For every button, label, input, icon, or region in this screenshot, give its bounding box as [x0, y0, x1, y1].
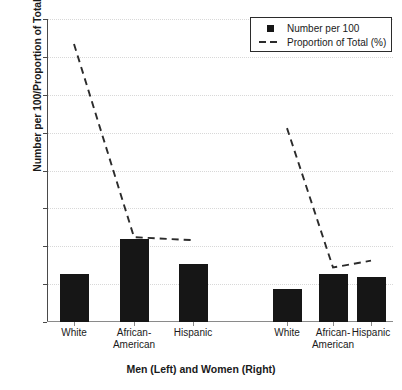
filled-square-icon: [259, 25, 281, 32]
label-line: American: [99, 339, 169, 351]
x-axis-tick-mark: [134, 322, 135, 326]
trend-line: [287, 128, 371, 267]
label-line: Hispanic: [336, 327, 402, 339]
legend-item-proportion-of-total: Proportion of Total (%): [259, 35, 386, 49]
trend-line: [74, 44, 193, 240]
label-line: Hispanic: [158, 327, 228, 339]
legend-item-number-per-100: Number per 100: [259, 21, 359, 35]
x-axis-tick-mark: [371, 322, 372, 326]
legend-label: Proportion of Total (%): [287, 37, 386, 48]
legend-label: Number per 100: [287, 23, 359, 34]
line-series: [47, 19, 393, 322]
y-axis-tick-mark: [43, 322, 47, 323]
chart-legend: Number per 100 Proportion of Total (%): [250, 17, 392, 52]
x-axis-category-label: Hispanic: [336, 327, 402, 339]
x-axis-tick-mark: [74, 322, 75, 326]
x-axis-tick-mark: [287, 322, 288, 326]
chart-container: Number per 100/Proportion of Total (%) 0…: [0, 0, 402, 390]
x-axis-tick-mark: [193, 322, 194, 326]
plot-area: 0510152025303540: [47, 19, 393, 322]
x-axis-tick-mark: [333, 322, 334, 326]
x-axis-category-label: Hispanic: [158, 327, 228, 339]
dashed-line-icon: [259, 41, 281, 43]
x-axis-title: Men (Left) and Women (Right): [0, 363, 402, 375]
y-axis-title: Number per 100/Proportion of Total (%): [31, 0, 43, 201]
label-line: American: [298, 339, 368, 351]
